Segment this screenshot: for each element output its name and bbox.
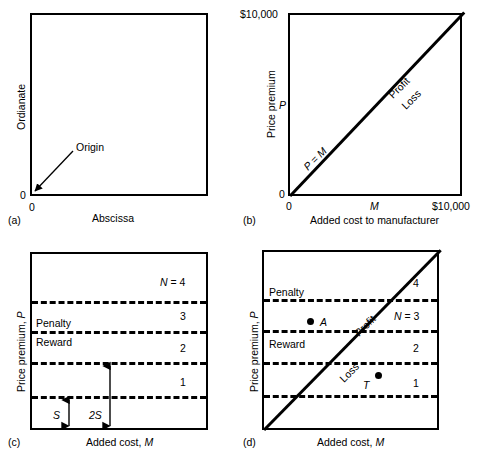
panel-c-x-axis-label-text: Added cost,: [86, 436, 144, 448]
panel-c-span-label-s: S: [53, 410, 60, 421]
panel-d-point-a-label: A: [320, 317, 327, 328]
panel-d-zone-label-2: 2: [413, 343, 419, 354]
panel-d-reward-label: Reward: [269, 339, 305, 350]
panel-d-zone-label-3: N = 3: [394, 311, 419, 322]
panel-d-x-axis-label: Added cost, M: [317, 437, 384, 448]
panel-c-span-label-2s: 2S: [89, 410, 102, 421]
panel-d-y-axis-symbol: P: [248, 311, 260, 318]
panel-d-tag: (d): [243, 437, 256, 448]
panel-d-point-t-marker: [375, 372, 382, 379]
panel-d-point-t-label: T: [363, 380, 369, 391]
panel-c-x-axis-symbol: M: [144, 436, 153, 448]
panel-d-penalty-label: Penalty: [269, 287, 304, 298]
panel-d-zone-label-4: 4: [413, 278, 419, 289]
panel-d-band-divider-1: [264, 299, 437, 302]
panel-d-y-axis-label: Price premium, P: [249, 311, 260, 392]
panel-d-zone-label-1: 1: [413, 378, 419, 389]
panel-c-tag: (c): [8, 437, 20, 448]
panel-d-zone-symbol: N: [394, 310, 402, 322]
panel-d-point-a-marker: [307, 318, 314, 325]
panel-c-x-axis-label: Added cost, M: [86, 437, 153, 448]
panel-d-y-axis-label-text: Price premium,: [248, 318, 260, 392]
panel-d-band-divider-4: [264, 395, 437, 398]
panel-d-band-divider-2: [264, 330, 437, 333]
panel-d-x-axis-symbol: M: [375, 436, 384, 448]
panel-d-x-axis-label-text: Added cost,: [317, 436, 375, 448]
panel-d-zone-eq: = 3: [402, 310, 420, 322]
